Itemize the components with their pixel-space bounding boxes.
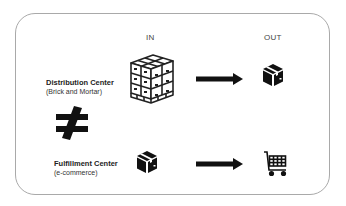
arrow-right-icon (196, 71, 243, 83)
distribution-center-subtitle: (Brick and Mortar) (46, 88, 102, 95)
pallet-of-boxes-icon (127, 51, 177, 105)
distribution-center-title: Distribution Center (46, 78, 114, 87)
fulfillment-center-subtitle: (e-commerce) (54, 169, 98, 176)
fulfillment-center-title: Fulfillment Center (54, 159, 118, 168)
shopping-cart-icon (263, 150, 289, 177)
not-equal-icon (54, 104, 90, 142)
arrow-right-icon-fulfillment (196, 156, 243, 168)
in-column-label: IN (146, 33, 154, 42)
out-column-label: OUT (264, 33, 282, 42)
box-icon (262, 63, 284, 87)
box-icon-fulfillment (136, 150, 158, 174)
